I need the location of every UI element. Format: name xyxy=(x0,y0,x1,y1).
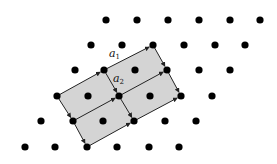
lattice-point xyxy=(53,92,60,99)
lattice-point xyxy=(83,143,90,150)
lattice-point xyxy=(115,92,122,99)
lattice-point xyxy=(21,143,28,150)
lattice-point xyxy=(226,16,233,23)
lattice-point xyxy=(102,16,109,23)
lattice-point xyxy=(177,92,184,99)
lattice-point xyxy=(133,16,140,23)
lattice-point xyxy=(195,66,202,73)
lattice-point xyxy=(99,117,106,124)
lattice-point xyxy=(87,41,94,48)
lattice-point xyxy=(164,16,171,23)
lattice-point xyxy=(208,92,215,99)
lattice-point xyxy=(163,66,170,73)
lattice-point xyxy=(175,143,182,150)
lattice-point xyxy=(71,66,78,73)
lattice-point xyxy=(131,66,138,73)
lattice-point xyxy=(180,41,187,48)
lattice-point xyxy=(256,16,263,23)
lattice-point xyxy=(161,117,168,124)
lattice-point xyxy=(211,41,218,48)
lattice-diagram: a1a2 xyxy=(0,0,277,164)
lattice-point xyxy=(130,117,137,124)
lattice-point xyxy=(146,92,153,99)
lattice-point xyxy=(84,92,91,99)
lattice-point xyxy=(100,66,107,73)
lattice-point xyxy=(195,16,202,23)
lattice-point xyxy=(145,143,152,150)
lattice-point xyxy=(113,143,120,150)
lattice-point xyxy=(226,66,233,73)
lattice-point xyxy=(241,41,248,48)
lattice-point xyxy=(149,41,156,48)
lattice-point xyxy=(118,41,125,48)
label-a1: a1 xyxy=(109,47,120,61)
lattice-point xyxy=(192,117,199,124)
lattice-point xyxy=(51,143,58,150)
lattice-point xyxy=(69,117,76,124)
lattice-point xyxy=(37,117,44,124)
